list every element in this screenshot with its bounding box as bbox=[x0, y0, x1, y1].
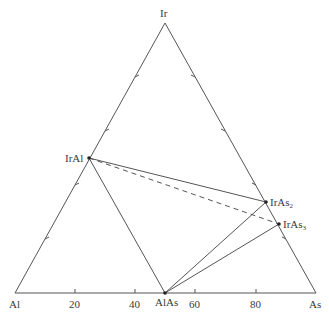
phase-label-alas: AlAs bbox=[155, 297, 178, 308]
phase-label-iras3: IrAs3 bbox=[283, 219, 306, 232]
tick-label-40: 40 bbox=[129, 299, 140, 310]
vertex-label-as: As bbox=[309, 299, 321, 310]
phase-points bbox=[87, 156, 281, 295]
point-alas bbox=[163, 291, 167, 295]
point-iras2 bbox=[264, 200, 268, 204]
phase-label-iras2: IrAs2 bbox=[270, 197, 293, 210]
tie-line-iral-iras2 bbox=[89, 158, 266, 202]
tick-label-80: 80 bbox=[250, 299, 261, 310]
phase-label-iras3-base: IrAs bbox=[283, 218, 303, 230]
triangle-outline bbox=[15, 23, 316, 293]
phase-label-iras2-sub: 2 bbox=[290, 202, 294, 210]
tie-line-iral-iras3 bbox=[89, 158, 279, 224]
vertex-label-al: Al bbox=[9, 299, 20, 310]
tick-label-20: 20 bbox=[69, 299, 80, 310]
tie-lines bbox=[89, 158, 279, 293]
tie-line-alas-iras2 bbox=[165, 202, 266, 293]
ternary-diagram bbox=[0, 0, 329, 320]
phase-label-iras2-base: IrAs bbox=[270, 196, 290, 208]
phase-label-iral: IrAl bbox=[65, 153, 83, 164]
tie-line-alas-iras3 bbox=[165, 224, 279, 293]
tick-label-60: 60 bbox=[189, 299, 200, 310]
tie-line-iral-alas bbox=[89, 158, 165, 293]
vertex-label-ir: Ir bbox=[160, 8, 167, 19]
point-iras3 bbox=[277, 222, 281, 226]
point-iral bbox=[87, 156, 91, 160]
phase-label-iras3-sub: 3 bbox=[303, 224, 307, 232]
